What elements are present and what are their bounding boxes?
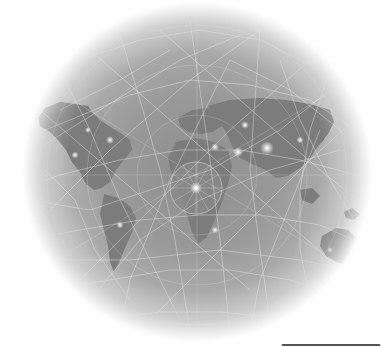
hub-glow <box>327 247 333 253</box>
illustration <box>0 0 381 347</box>
hub-glow <box>72 152 79 159</box>
hub-glow <box>117 222 124 229</box>
hub-glow <box>85 127 91 133</box>
hub-glow <box>212 227 219 234</box>
southeast-asia-shape <box>300 188 320 204</box>
hub-dot <box>194 186 197 189</box>
hub-glow <box>241 121 249 129</box>
hub-glow <box>106 136 114 144</box>
south-america-shape <box>100 194 136 272</box>
scale-line <box>282 344 380 346</box>
world-map <box>0 0 381 347</box>
hub-glow <box>233 147 243 157</box>
australia-shape <box>320 228 362 266</box>
hub-glow <box>260 141 274 155</box>
hub-glow <box>297 137 304 144</box>
hub-glow <box>211 143 219 151</box>
new-guinea-shape <box>344 208 360 220</box>
